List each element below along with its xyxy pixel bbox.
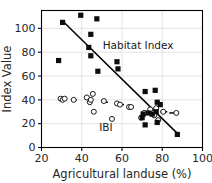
- x-tick-label: 100: [192, 152, 212, 165]
- x-tick-label: 60: [115, 152, 129, 165]
- x-tick-label: 80: [155, 152, 169, 165]
- data-point-habitat-index: [175, 132, 180, 137]
- x-tick-label: 20: [35, 152, 49, 165]
- annotation-habitat-index: Habitat Index: [103, 39, 174, 51]
- data-point-habitat-index: [88, 53, 93, 58]
- y-tick-label: 60: [22, 70, 36, 83]
- data-point-habitat-index: [88, 32, 93, 37]
- annotation-ibi: IBI: [99, 121, 112, 133]
- data-point-habitat-index: [143, 122, 148, 127]
- data-point-habitat-index: [146, 110, 151, 115]
- data-point-ibi: [117, 102, 122, 107]
- data-point-habitat-index: [153, 88, 158, 93]
- data-point-ibi: [174, 110, 179, 115]
- data-point-habitat-index: [141, 112, 146, 117]
- data-point-habitat-index: [143, 89, 148, 94]
- y-tick-label: 40: [22, 94, 36, 107]
- data-point-habitat-index: [114, 59, 119, 64]
- y-tick-label: 20: [22, 117, 36, 130]
- data-point-habitat-index: [78, 13, 83, 18]
- data-point-habitat-index: [95, 69, 100, 74]
- trendline-layer: [62, 20, 179, 134]
- data-point-habitat-index: [158, 102, 163, 107]
- data-point-ibi: [101, 99, 106, 104]
- data-point-habitat-index: [86, 45, 91, 50]
- data-point-ibi: [90, 91, 95, 96]
- data-point-ibi: [71, 97, 76, 102]
- scatter-plot-figure: 02040608010020406080100 Agricultural lan…: [0, 0, 212, 183]
- data-point-habitat-index: [94, 16, 99, 21]
- data-point-ibi: [91, 109, 96, 114]
- data-point-ibi: [129, 104, 134, 109]
- data-point-ibi: [62, 96, 67, 101]
- y-tick-label: 80: [22, 46, 36, 59]
- data-point-habitat-index: [60, 20, 65, 25]
- data-point-habitat-index: [56, 58, 61, 63]
- data-point-ibi: [88, 97, 93, 102]
- x-axis-title: Agricultural landuse (%): [52, 167, 191, 181]
- y-tick-label: 100: [15, 22, 36, 35]
- y-axis-title: Index Value: [0, 46, 14, 113]
- data-point-ibi: [161, 109, 166, 114]
- data-point-habitat-index: [115, 66, 120, 71]
- x-tick-label: 40: [75, 152, 89, 165]
- data-point-habitat-index: [155, 120, 160, 125]
- habitat-index-regression: [62, 20, 179, 134]
- chart-canvas: 02040608010020406080100 Agricultural lan…: [0, 0, 212, 183]
